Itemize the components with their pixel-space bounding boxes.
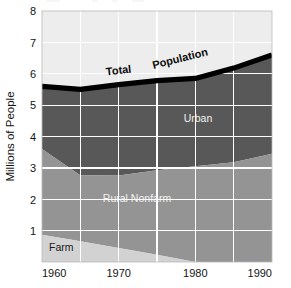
y-tick-label: 2 (30, 194, 36, 206)
y-tick-label: 5 (30, 99, 36, 111)
series-label-urban: Urban (184, 112, 213, 124)
series-label-farm: Farm (49, 241, 74, 253)
x-tick-label: 1980 (183, 267, 207, 279)
y-tick-label: 8 (30, 5, 36, 17)
y-tick-label: 3 (30, 162, 36, 174)
stacked-area-chart: 8 7 6 5 4 3 2 1 Millions of People 1960 … (0, 0, 291, 288)
series-label-rural-nonfarm: Rural Nonfarm (103, 192, 172, 204)
x-tick-label: 1970 (106, 267, 130, 279)
x-tick-label: 1990 (248, 267, 272, 279)
y-tick-label: 7 (30, 37, 36, 49)
plot-area (42, 11, 272, 262)
y-tick-label: 4 (30, 131, 36, 143)
y-tick-label: 6 (30, 68, 36, 80)
x-tick-label: 1960 (42, 267, 66, 279)
chart-canvas: 8 7 6 5 4 3 2 1 Millions of People 1960 … (0, 0, 291, 288)
y-tick-label: 1 (30, 225, 36, 237)
y-axis-title: Millions of People (4, 91, 16, 181)
